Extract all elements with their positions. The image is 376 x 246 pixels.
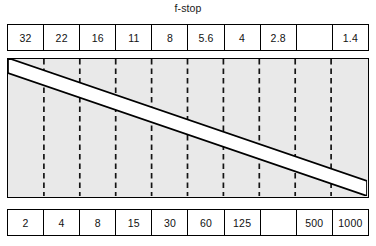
graph-svg (8, 59, 367, 196)
fstop-cell: 4 (225, 25, 261, 50)
fstop-cell: 1.4 (333, 25, 368, 50)
fstop-cell: 2.8 (261, 25, 297, 50)
fstop-cell: 32 (8, 25, 44, 50)
shutter-cell-empty (261, 210, 297, 235)
fstop-cell: 16 (80, 25, 116, 50)
shutter-cell: 15 (116, 210, 152, 235)
fstop-cell: 22 (44, 25, 80, 50)
shutter-cell: 1000 (333, 210, 368, 235)
fstop-cell: 11 (116, 25, 152, 50)
shutter-speed-scale-row: 2 4 8 15 30 60 125 500 1000 (7, 209, 369, 236)
shutter-cell: 30 (152, 210, 188, 235)
chart-title: f-stop (0, 2, 376, 14)
fstop-scale-row: 32 22 16 11 8 5.6 4 2.8 1.4 (7, 24, 369, 51)
fstop-cell: 5.6 (188, 25, 224, 50)
shutter-cell: 60 (188, 210, 224, 235)
shutter-cell: 4 (44, 210, 80, 235)
fstop-cell: 8 (152, 25, 188, 50)
shutter-cell: 8 (80, 210, 116, 235)
graph-panel (7, 58, 369, 198)
shutter-cell: 500 (297, 210, 333, 235)
fstop-cell-empty (297, 25, 333, 50)
shutter-cell: 125 (225, 210, 261, 235)
f-stop-shutter-chart: f-stop 32 22 16 11 8 5.6 4 2.8 1.4 (0, 0, 376, 246)
shutter-cell: 2 (8, 210, 44, 235)
